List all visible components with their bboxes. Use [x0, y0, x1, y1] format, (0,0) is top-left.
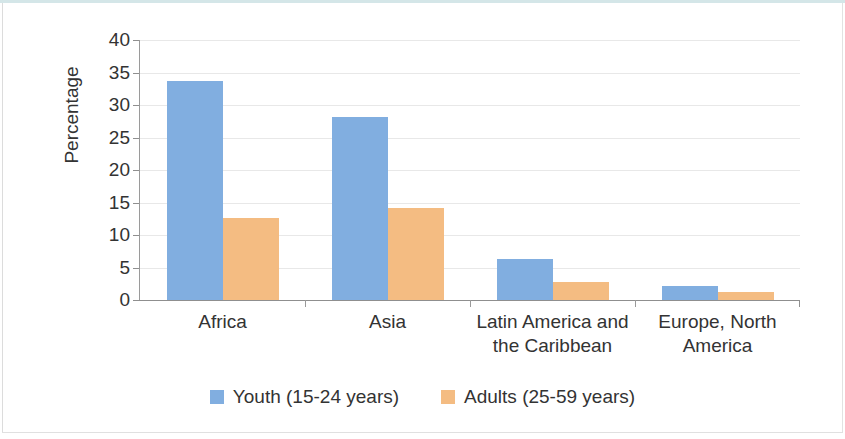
y-axis-tick-labels: 0510152025303540 [90, 0, 130, 439]
bar-adults [223, 218, 279, 300]
y-axis-tick-label: 40 [109, 30, 130, 49]
legend-swatch-icon [210, 390, 224, 404]
bar-chart: Percentage 0510152025303540 AfricaAsiaLa… [0, 0, 845, 439]
bar-youth [662, 286, 718, 300]
y-axis-tick-label: 5 [119, 258, 130, 277]
y-axis-tick [133, 300, 139, 301]
bar-adults [388, 208, 444, 300]
legend-swatch-icon [441, 390, 455, 404]
y-axis-tick [133, 40, 139, 41]
chart-legend: Youth (15-24 years)Adults (25-59 years) [0, 386, 845, 408]
bar-youth [332, 117, 388, 300]
x-axis-category-label-line: America [635, 334, 800, 358]
bar-youth [497, 259, 553, 300]
x-axis-category-label-line: Europe, North [635, 310, 800, 334]
x-axis-end-tick [799, 300, 800, 307]
y-axis-tick-label: 10 [109, 225, 130, 244]
y-axis-tick-label: 20 [109, 160, 130, 179]
x-axis-category-label-line: Latin America and [470, 310, 635, 334]
plot-area [140, 40, 800, 300]
x-axis-category-label-line: the Caribbean [470, 334, 635, 358]
y-axis-tick [133, 73, 139, 74]
legend-item[interactable]: Youth (15-24 years) [210, 386, 399, 408]
x-axis-category-label-line: Africa [140, 310, 305, 334]
y-axis-tick [133, 203, 139, 204]
x-axis-category-label: Europe, NorthAmerica [635, 310, 800, 358]
legend-label: Adults (25-59 years) [464, 386, 635, 408]
chart-screenshot: Percentage 0510152025303540 AfricaAsiaLa… [0, 0, 845, 439]
bar-adults [553, 282, 609, 300]
x-axis-category-label-line: Asia [305, 310, 470, 334]
y-axis-tick [133, 138, 139, 139]
y-axis-tick [133, 268, 139, 269]
y-axis-tick-label: 25 [109, 128, 130, 147]
y-axis-tick-label: 30 [109, 95, 130, 114]
y-axis-tick-label: 15 [109, 193, 130, 212]
legend-item[interactable]: Adults (25-59 years) [441, 386, 635, 408]
bar-adults [718, 292, 774, 300]
legend-label: Youth (15-24 years) [233, 386, 399, 408]
y-axis-tick [133, 235, 139, 236]
bar-youth [167, 81, 223, 300]
x-axis-tick [635, 300, 636, 307]
x-axis-category-label: Latin America andthe Caribbean [470, 310, 635, 358]
y-axis-tick-label: 0 [119, 290, 130, 309]
y-axis-tick-label: 35 [109, 63, 130, 82]
x-axis-tick [470, 300, 471, 307]
x-axis-category-label: Asia [305, 310, 470, 334]
x-axis-category-label: Africa [140, 310, 305, 334]
y-axis-tick [133, 105, 139, 106]
y-axis-title: Percentage [61, 15, 83, 215]
y-axis-tick [133, 170, 139, 171]
x-axis-tick [305, 300, 306, 307]
